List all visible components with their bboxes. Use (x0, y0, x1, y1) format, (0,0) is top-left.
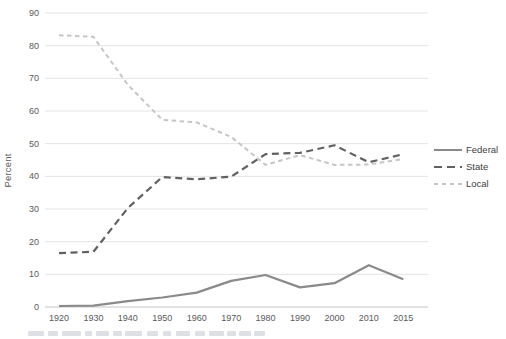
x-tick-label: 1940 (118, 313, 138, 323)
series-line-federal (59, 265, 403, 306)
y-tick-label: 90 (29, 8, 39, 18)
legend-label-state: State (466, 161, 488, 172)
clipped-caption-fragment (62, 331, 81, 336)
y-tick-label: 10 (29, 269, 39, 279)
legend-label-local: Local (466, 178, 489, 189)
clipped-caption-fragment (28, 331, 44, 336)
clipped-caption-fragment (96, 331, 109, 336)
y-tick-label: 70 (29, 73, 39, 83)
chart-figure: 0102030405060708090192019301940195019601… (0, 0, 506, 339)
x-tick-label: 1950 (152, 313, 172, 323)
y-tick-label: 80 (29, 41, 39, 51)
x-tick-label: 1930 (83, 313, 103, 323)
clipped-caption-fragment (176, 331, 190, 336)
x-tick-label: 2015 (393, 313, 413, 323)
legend-label-federal: Federal (466, 144, 498, 155)
clipped-caption-fragment (48, 331, 58, 336)
local-line-swatch-icon (434, 183, 462, 185)
series-line-local (59, 35, 403, 165)
series-line-state (59, 145, 403, 253)
clipped-caption-fragment (85, 331, 92, 336)
x-tick-label: 1970 (221, 313, 241, 323)
legend: Federal State Local (434, 141, 498, 192)
clipped-caption-fragment (195, 331, 205, 336)
clipped-caption-fragment (125, 331, 142, 336)
y-tick-label: 40 (29, 171, 39, 181)
y-tick-label: 30 (29, 204, 39, 214)
legend-item-federal: Federal (434, 141, 498, 158)
clipped-caption-fragment (209, 331, 224, 336)
x-tick-label: 1960 (187, 313, 207, 323)
clipped-caption-fragment (254, 331, 265, 336)
state-line-swatch-icon (434, 166, 462, 168)
clipped-caption-text (28, 331, 268, 339)
plot-area: 0102030405060708090192019301940195019601… (0, 0, 506, 339)
x-tick-label: 1980 (256, 313, 276, 323)
y-tick-label: 20 (29, 237, 39, 247)
y-tick-label: 60 (29, 106, 39, 116)
x-tick-label: 2010 (359, 313, 379, 323)
y-tick-label: 0 (34, 302, 39, 312)
legend-item-local: Local (434, 175, 498, 192)
federal-line-swatch-icon (434, 149, 462, 151)
y-tick-label: 50 (29, 139, 39, 149)
clipped-caption-fragment (113, 331, 122, 336)
clipped-caption-fragment (239, 331, 251, 336)
clipped-caption-fragment (163, 331, 171, 336)
x-tick-label: 1920 (49, 313, 69, 323)
legend-item-state: State (434, 158, 498, 175)
x-tick-label: 1990 (290, 313, 310, 323)
clipped-caption-fragment (227, 331, 236, 336)
x-tick-label: 2000 (324, 313, 344, 323)
clipped-caption-fragment (147, 331, 158, 336)
y-axis-title: Percent (2, 141, 13, 201)
